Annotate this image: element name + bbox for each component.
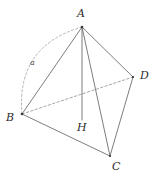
edge-ad <box>82 27 133 77</box>
vertex-dot-a <box>81 26 84 29</box>
edge-bd <box>22 77 133 114</box>
geometry-figure: A B C D H a <box>0 0 160 185</box>
arc-length-label-a: a <box>30 59 35 67</box>
vertex-dot-c <box>109 155 111 157</box>
tetrahedron-svg <box>0 0 160 185</box>
edge-bc <box>22 114 110 156</box>
vertex-label-d: D <box>140 70 149 81</box>
vertex-label-h: H <box>77 122 87 133</box>
edge-cd <box>110 77 133 156</box>
vertex-label-c: C <box>112 161 120 172</box>
vertex-label-a: A <box>77 8 85 19</box>
edge-ac <box>82 27 110 156</box>
vertex-dot-b <box>21 113 24 116</box>
edge-ab <box>22 27 82 114</box>
vertex-label-b: B <box>6 112 14 123</box>
vertex-dot-d <box>132 76 134 78</box>
